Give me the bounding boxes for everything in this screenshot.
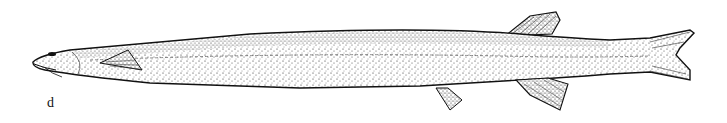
anal-fin: [516, 78, 568, 110]
fish-drawing: [0, 0, 727, 123]
fish-illustration-figure: d: [0, 0, 727, 123]
dorsal-fin: [505, 12, 560, 36]
panel-label: d: [47, 95, 54, 111]
eye: [48, 52, 56, 56]
pelvic-fin: [436, 88, 462, 110]
